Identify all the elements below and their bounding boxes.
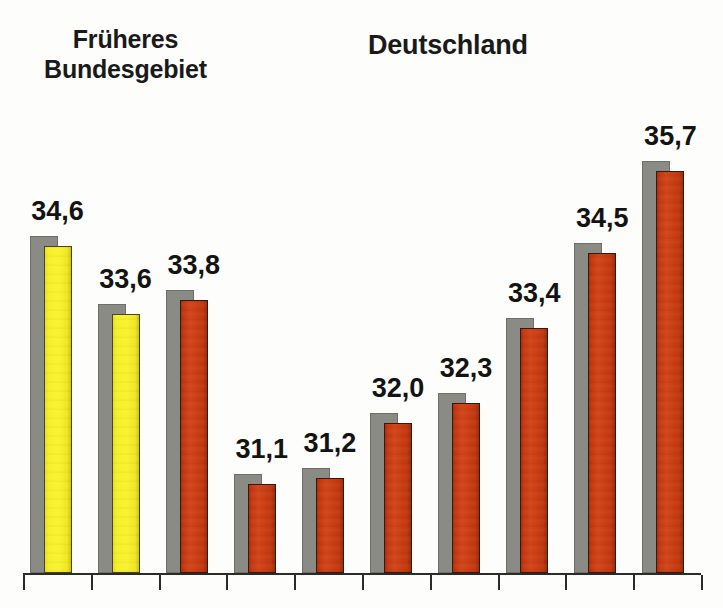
bar-6: [370, 0, 412, 573]
bar-value-label: 31,2: [285, 428, 375, 459]
bar-9: [574, 0, 616, 573]
bar-body: [656, 171, 684, 573]
bar-body: [520, 328, 548, 573]
bar-body: [384, 423, 412, 573]
bar-body: [180, 300, 208, 573]
x-axis-tick: [565, 575, 567, 590]
x-axis-tick: [226, 575, 228, 590]
bar-value-label: 32,3: [421, 353, 511, 384]
bar-chart: Früheres Bundesgebiet Deutschland 34,633…: [0, 0, 723, 608]
x-axis-tick: [91, 575, 93, 590]
bar-value-label: 35,7: [625, 121, 715, 152]
x-axis-tick: [430, 575, 432, 590]
x-axis-tick: [23, 575, 25, 590]
bar-value-label: 33,4: [489, 278, 579, 309]
x-axis-tick: [633, 575, 635, 590]
x-axis-tick: [159, 575, 161, 590]
bar-body: [316, 478, 344, 573]
bar-4: [234, 0, 276, 573]
x-axis-tick: [294, 575, 296, 590]
bar-10: [642, 0, 684, 573]
x-axis-tick: [362, 575, 364, 590]
plot-area: 34,633,633,831,131,232,032,333,434,535,7: [0, 0, 723, 608]
bar-5: [302, 0, 344, 573]
bar-value-label: 34,5: [557, 203, 647, 234]
bar-value-label: 33,8: [149, 250, 239, 281]
bar-value-label: 34,6: [13, 196, 103, 227]
bar-body: [248, 484, 276, 573]
x-axis-tick: [498, 575, 500, 590]
bar-body: [588, 253, 616, 573]
bar-7: [438, 0, 480, 573]
bar-body: [112, 314, 140, 573]
x-axis-tick: [701, 575, 703, 590]
bar-body: [452, 403, 480, 573]
bar-1: [30, 0, 72, 573]
bar-body: [44, 246, 72, 573]
bar-3: [166, 0, 208, 573]
